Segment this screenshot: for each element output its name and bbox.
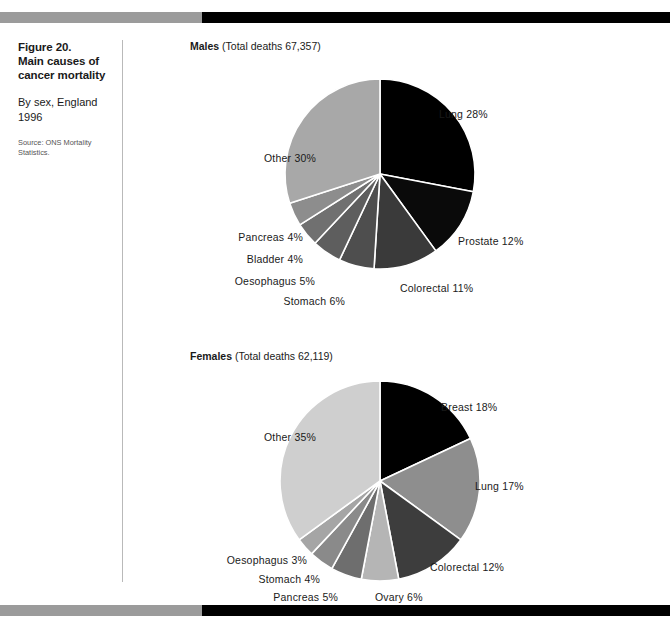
- header-rule-black-segment: [202, 12, 670, 23]
- chart-males-heading-total: (Total deaths 67,357): [219, 40, 321, 52]
- females-label-breast: Breast 18%: [441, 401, 497, 413]
- header-rule: [0, 12, 670, 23]
- females-label-oesophagus: Oesophagus 3%: [227, 554, 307, 566]
- males-label-bladder: Bladder 4%: [247, 253, 303, 265]
- females-label-pancreas: Pancreas 5%: [273, 591, 338, 603]
- chart-males: Males (Total deaths 67,357) Lung 28% Pro…: [190, 40, 660, 306]
- males-label-stomach: Stomach 6%: [283, 295, 345, 307]
- figure-title-line-2: Main causes of: [18, 54, 114, 68]
- figure-title-line-3: cancer mortality: [18, 68, 114, 82]
- males-label-other: Other 30%: [264, 152, 316, 164]
- males-label-oesophagus: Oesophagus 5%: [235, 275, 315, 287]
- chart-females-pie-area: Breast 18% Lung 17% Colorectal 12% Ovary…: [190, 366, 660, 616]
- pie-slice-lung: [380, 79, 475, 192]
- chart-females-heading: Females (Total deaths 62,119): [190, 350, 660, 362]
- females-label-stomach: Stomach 4%: [258, 573, 320, 585]
- chart-males-heading-sex: Males: [190, 40, 219, 52]
- females-label-colorectal: Colorectal 12%: [430, 561, 504, 573]
- chart-males-heading: Males (Total deaths 67,357): [190, 40, 660, 52]
- column-divider: [122, 40, 123, 582]
- figure-title: Figure 20. Main causes of cancer mortali…: [18, 40, 114, 82]
- header-rule-gray-segment: [0, 12, 202, 23]
- females-label-lung: Lung 17%: [475, 480, 524, 492]
- figure-title-line-1: Figure 20.: [18, 40, 114, 54]
- figure-caption: Figure 20. Main causes of cancer mortali…: [18, 40, 114, 158]
- females-label-ovary: Ovary 6%: [375, 591, 423, 603]
- chart-males-pie-area: Lung 28% Prostate 12% Colorectal 11% Sto…: [190, 56, 660, 306]
- figure-subtitle: By sex, England 1996: [18, 95, 114, 124]
- chart-females-heading-total: (Total deaths 62,119): [232, 350, 333, 362]
- males-label-colorectal: Colorectal 11%: [400, 282, 473, 294]
- males-label-lung: Lung 28%: [439, 108, 488, 120]
- males-label-pancreas: Pancreas 4%: [238, 231, 303, 243]
- figure-source: Source: ONS Mortality Statistics.: [18, 138, 114, 158]
- chart-females-heading-sex: Females: [190, 350, 232, 362]
- pie-males-svg: [190, 56, 660, 306]
- chart-females: Females (Total deaths 62,119) Breast 18%…: [190, 350, 660, 616]
- footer-rule-gray-segment: [0, 605, 202, 616]
- males-label-prostate: Prostate 12%: [458, 235, 523, 247]
- females-label-other: Other 35%: [264, 431, 316, 443]
